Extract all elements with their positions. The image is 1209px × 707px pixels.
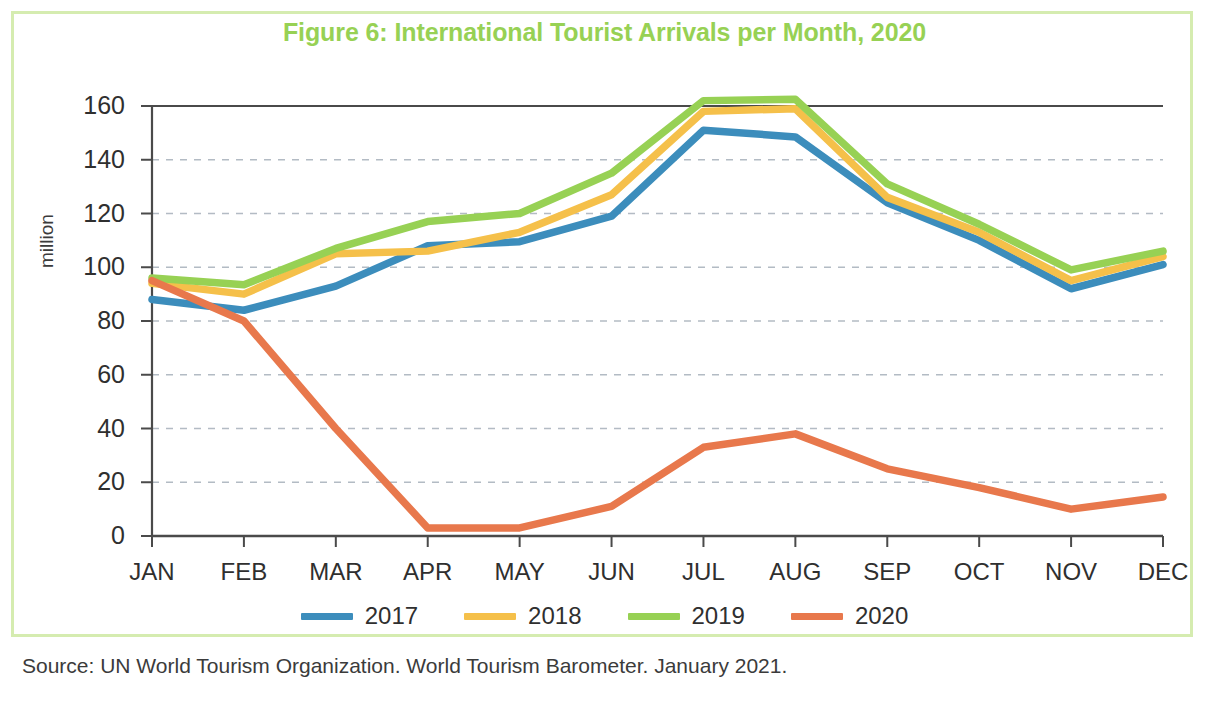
x-tick-label-feb: FEB bbox=[194, 560, 294, 584]
legend-swatch-icon bbox=[464, 613, 516, 620]
y-tick-label: 40 bbox=[63, 416, 125, 441]
y-tick-label: 80 bbox=[63, 308, 125, 333]
y-tick-label: 20 bbox=[63, 469, 125, 494]
legend-label: 2020 bbox=[855, 604, 908, 628]
x-tick-label-may: MAY bbox=[470, 560, 570, 584]
x-tick-label-dec: DEC bbox=[1113, 560, 1209, 584]
y-axis-title: million bbox=[36, 214, 58, 268]
legend-swatch-icon bbox=[301, 613, 353, 620]
legend-swatch-icon bbox=[628, 613, 680, 620]
legend-label: 2018 bbox=[528, 604, 581, 628]
x-tick-label-nov: NOV bbox=[1021, 560, 1121, 584]
x-tick-label-apr: APR bbox=[378, 560, 478, 584]
y-tick-label: 140 bbox=[63, 147, 125, 172]
y-tick-label: 160 bbox=[63, 93, 125, 118]
y-tick-label: 100 bbox=[63, 254, 125, 279]
chart-legend: 2017201820192020 bbox=[0, 604, 1209, 628]
x-tick-label-aug: AUG bbox=[745, 560, 845, 584]
figure-frame bbox=[11, 11, 1193, 637]
legend-item-2019[interactable]: 2019 bbox=[628, 604, 745, 628]
x-tick-label-mar: MAR bbox=[286, 560, 386, 584]
y-tick-label: 0 bbox=[63, 523, 125, 548]
legend-item-2020[interactable]: 2020 bbox=[791, 604, 908, 628]
chart-title: Figure 6: International Tourist Arrivals… bbox=[0, 18, 1209, 47]
y-tick-label: 120 bbox=[63, 201, 125, 226]
x-tick-label-oct: OCT bbox=[929, 560, 1029, 584]
legend-item-2018[interactable]: 2018 bbox=[464, 604, 581, 628]
legend-swatch-icon bbox=[791, 613, 843, 620]
legend-label: 2017 bbox=[365, 604, 418, 628]
legend-item-2017[interactable]: 2017 bbox=[301, 604, 418, 628]
x-tick-label-sep: SEP bbox=[837, 560, 937, 584]
x-tick-label-jun: JUN bbox=[562, 560, 662, 584]
x-tick-label-jul: JUL bbox=[653, 560, 753, 584]
source-note: Source: UN World Tourism Organization. W… bbox=[22, 654, 787, 678]
legend-label: 2019 bbox=[692, 604, 745, 628]
x-tick-label-jan: JAN bbox=[102, 560, 202, 584]
y-tick-label: 60 bbox=[63, 362, 125, 387]
